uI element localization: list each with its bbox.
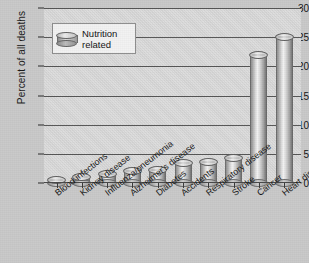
legend-label: Nutrition related (82, 28, 117, 50)
gridline (44, 8, 301, 9)
legend-label-line2: related (82, 39, 117, 50)
bar (276, 33, 293, 183)
legend: Nutrition related (52, 23, 136, 54)
y-axis-title: Percent of all deaths (16, 0, 27, 123)
legend-cylinder-icon (56, 31, 78, 46)
nutrition-related-deaths-bar-chart: Percent of all deaths 051015202530 Blood… (0, 0, 309, 263)
legend-label-line1: Nutrition (82, 28, 117, 39)
